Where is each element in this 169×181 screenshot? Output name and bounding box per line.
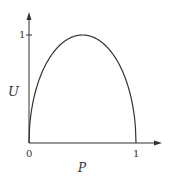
y-tick-label-1: 1 bbox=[19, 29, 25, 40]
chart: 1 0 1 U P bbox=[0, 0, 169, 181]
data-curve bbox=[29, 35, 136, 143]
y-axis-arrow-icon bbox=[27, 12, 32, 20]
x-axis-label: P bbox=[77, 161, 87, 175]
x-tick-label-0: 0 bbox=[26, 148, 32, 159]
x-tick-label-1: 1 bbox=[133, 148, 139, 159]
x-axis-arrow-icon bbox=[154, 141, 162, 146]
y-axis-label: U bbox=[8, 84, 20, 99]
